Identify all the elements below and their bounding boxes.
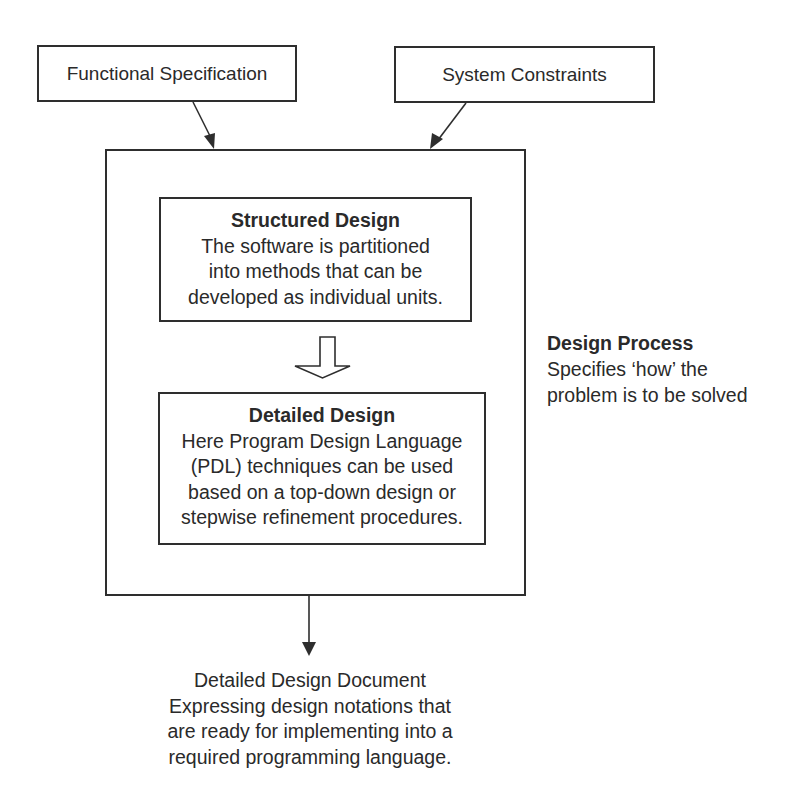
arrowhead-icon xyxy=(204,133,215,149)
structured-design-line: developed as individual units. xyxy=(159,285,472,311)
design-process-description: problem is to be solved xyxy=(547,382,748,408)
design-process-description: Specifies ‘how’ the xyxy=(547,356,748,382)
output-line: are ready for implementing into a xyxy=(110,719,510,745)
detailed-design-line: based on a top-down design or xyxy=(158,480,486,506)
arrow-functional-spec-to-process xyxy=(193,102,215,149)
arrowhead-icon xyxy=(302,642,316,656)
structured-design-text: Structured Design The software is partit… xyxy=(159,208,472,310)
structured-design-title: Structured Design xyxy=(159,208,472,234)
detailed-design-title: Detailed Design xyxy=(158,403,486,429)
output-line: required programming language. xyxy=(110,745,510,771)
detailed-design-text: Detailed Design Here Program Design Lang… xyxy=(158,403,486,531)
system-constraints-box: System Constraints xyxy=(394,46,655,103)
detailed-design-line: (PDL) techniques can be used xyxy=(158,454,486,480)
functional-specification-label: Functional Specification xyxy=(39,63,295,85)
detailed-design-line: Here Program Design Language xyxy=(158,429,486,455)
detailed-design-document-text: Detailed Design Document Expressing desi… xyxy=(110,668,510,770)
functional-specification-box: Functional Specification xyxy=(37,45,297,102)
design-process-title: Design Process xyxy=(547,330,748,356)
arrow-process-to-document xyxy=(302,595,316,656)
structured-design-line: into methods that can be xyxy=(159,259,472,285)
system-constraints-label: System Constraints xyxy=(396,64,653,86)
design-process-diagram: Functional Specification System Constrai… xyxy=(0,0,807,809)
design-process-label: Design Process Specifies ‘how’ the probl… xyxy=(547,330,748,408)
arrow-system-constraints-to-process xyxy=(430,103,466,149)
output-line: Detailed Design Document xyxy=(110,668,510,694)
output-line: Expressing design notations that xyxy=(110,694,510,720)
structured-design-line: The software is partitioned xyxy=(159,234,472,260)
detailed-design-line: stepwise refinement procedures. xyxy=(158,505,486,531)
